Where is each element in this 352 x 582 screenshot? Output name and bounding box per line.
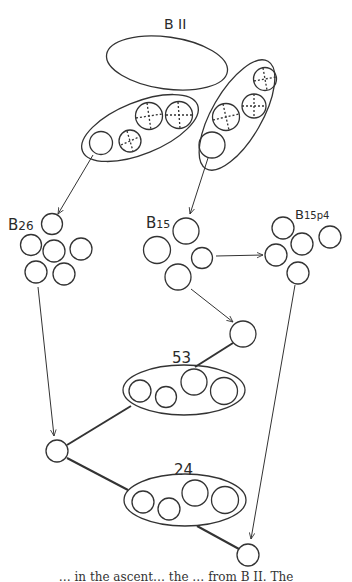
plain-circle [199, 132, 225, 158]
label-24: 24 [174, 461, 193, 479]
left-group-ellipse [73, 81, 207, 176]
dashed-circle [213, 104, 240, 131]
edge-left-to-b26 [58, 155, 93, 214]
cluster-b15: B15 [144, 214, 213, 290]
node-bottom [237, 544, 259, 566]
dashed-circle [254, 68, 277, 91]
edge-b26-to-node-left [38, 287, 54, 436]
label-53: 53 [172, 349, 191, 367]
plain-circle [90, 132, 113, 155]
label-b26: B26 [8, 216, 34, 234]
edge-right-to-b15 [190, 158, 208, 214]
edge-node-left-to-53 [67, 406, 131, 445]
edge-node-left-to-24 [67, 458, 128, 490]
dashed-circle [119, 130, 141, 152]
edge-node-right-to-53 [195, 343, 233, 367]
caption-text: … in the ascent… the … from B II. The [0, 568, 352, 582]
label-b-ii: B II [164, 16, 186, 32]
edge-b15p4-to-node-bottom [251, 285, 295, 539]
right-group [184, 49, 289, 181]
node-left [46, 440, 68, 462]
group-53 [123, 365, 245, 415]
group-24 [124, 474, 246, 526]
label-b15: B15 [146, 214, 170, 232]
edge-24-to-node-bottom [197, 526, 239, 549]
cluster-b26: B26 [8, 214, 92, 286]
cluster-b15p4: B15p4 [265, 207, 341, 284]
parent-ellipse-b-ii [103, 29, 231, 97]
edge-b15-to-node-right [191, 289, 233, 322]
dashed-circle [242, 94, 266, 118]
dashed-circle [166, 102, 193, 129]
edge-b15-to-b15p4 [216, 255, 263, 256]
label-b15p4: B15p4 [295, 207, 329, 222]
node-right [230, 321, 256, 347]
dashed-circle [136, 103, 163, 131]
left-group [73, 81, 207, 176]
